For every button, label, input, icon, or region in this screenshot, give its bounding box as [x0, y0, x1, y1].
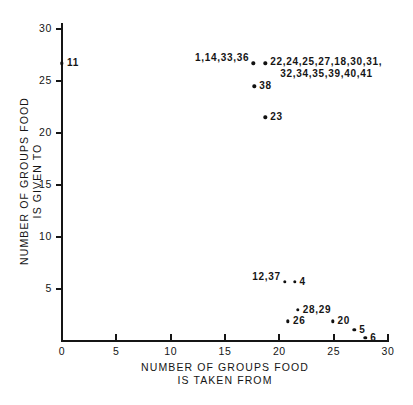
data-point-label: 5	[359, 324, 365, 336]
data-point	[286, 320, 289, 323]
data-point-label-line: 22,24,25,27,18,30,31,	[270, 56, 382, 68]
data-point	[331, 320, 334, 323]
data-point	[264, 62, 267, 65]
data-point	[293, 280, 296, 283]
data-point-label-line: 6	[370, 332, 376, 344]
data-point	[363, 336, 366, 339]
data-point-label-line: 20	[338, 315, 351, 327]
data-point-label-line: 4	[300, 276, 306, 288]
data-point-label-line: 28,29	[303, 304, 332, 316]
data-point-label: 26	[293, 315, 306, 327]
data-point-label: 38	[259, 80, 272, 92]
data-point	[264, 116, 267, 119]
data-point-label-line: 1,14,33,36	[195, 53, 249, 65]
data-point-label: 6	[370, 332, 376, 344]
data-point-label: 4	[300, 276, 306, 288]
data-point-label: 20	[338, 315, 351, 327]
data-point	[252, 62, 255, 65]
data-point-label-line: 5	[359, 324, 365, 336]
data-point	[60, 62, 63, 65]
data-point-label: 23	[270, 112, 283, 124]
data-point	[283, 280, 286, 283]
data-point-label: 12,37	[252, 271, 281, 283]
data-point	[353, 328, 356, 331]
data-point-label-line: 23	[270, 112, 283, 124]
plot-data-area: 111,14,33,3622,24,25,27,18,30,31,32,34,3…	[0, 0, 413, 405]
data-point-label-line: 32,34,35,39,40,41	[270, 67, 382, 79]
data-point-label: 22,24,25,27,18,30,31,32,34,35,39,40,41	[270, 56, 382, 79]
scatter-plot-figure: 51015202530 051015202530 NUMBER OF GROUP…	[0, 0, 413, 405]
data-point-label-line: 11	[67, 58, 79, 70]
data-point-label: 11	[67, 58, 79, 70]
data-point-label: 1,14,33,36	[195, 53, 249, 65]
data-point-label: 28,29	[303, 304, 332, 316]
data-point-label-line: 26	[293, 315, 306, 327]
data-point-label-line: 38	[259, 80, 272, 92]
data-point	[296, 308, 299, 311]
data-point-label-line: 12,37	[252, 271, 281, 283]
data-point	[253, 84, 256, 87]
